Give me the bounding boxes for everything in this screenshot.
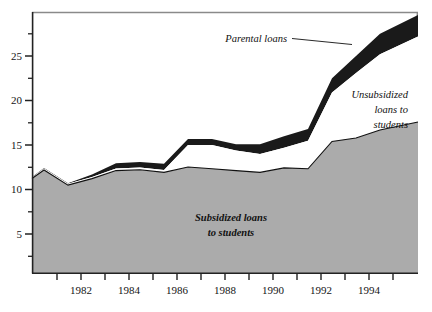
unsubsidized-label-line3: students: [374, 119, 408, 130]
stacked-area-chart: 25 20 15 10 5 1982 1984: [0, 0, 432, 312]
subsidized-label-line1: Subsidized loans: [195, 212, 267, 223]
x-tick-label: 1982: [70, 284, 92, 296]
unsubsidized-label-line2: loans to: [374, 104, 408, 115]
y-tick-label: 15: [11, 139, 23, 151]
y-tick-label: 20: [11, 94, 23, 106]
x-tick-label: 1984: [118, 284, 141, 296]
x-tick-label: 1988: [214, 284, 237, 296]
subsidized-label-line2: to students: [208, 227, 254, 238]
y-tick-label: 10: [11, 183, 23, 195]
y-tick-label: 25: [11, 50, 23, 62]
unsubsidized-label-line1: Unsubsidized: [351, 89, 408, 100]
x-tick-label: 1990: [262, 284, 285, 296]
x-tick-label: 1986: [166, 284, 189, 296]
parental-loans-label: Parental loans: [224, 33, 287, 44]
y-tick-label: 5: [17, 228, 23, 240]
x-tick-label: 1994: [358, 284, 381, 296]
x-tick-label: 1992: [310, 284, 332, 296]
chart-container: 25 20 15 10 5 1982 1984: [0, 0, 432, 312]
